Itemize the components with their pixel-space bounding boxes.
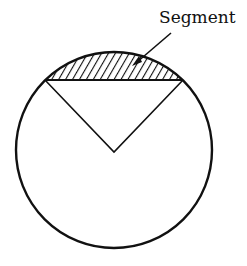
segment-label: Segment (159, 7, 236, 27)
segment-diagram: Segment (0, 0, 247, 266)
leader-line (136, 33, 171, 63)
radii (45, 80, 183, 152)
